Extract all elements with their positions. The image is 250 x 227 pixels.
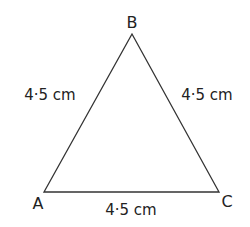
- triangle-abc: [44, 34, 219, 192]
- side-label-ab: 4·5 cm: [24, 86, 75, 104]
- side-label-bc: 4·5 cm: [181, 86, 232, 104]
- vertex-label-b: B: [127, 13, 138, 32]
- triangle-diagram: B A C 4·5 cm 4·5 cm 4·5 cm: [0, 0, 250, 227]
- vertex-label-c: C: [221, 192, 232, 211]
- vertex-label-a: A: [33, 194, 44, 213]
- side-label-ac: 4·5 cm: [105, 201, 156, 219]
